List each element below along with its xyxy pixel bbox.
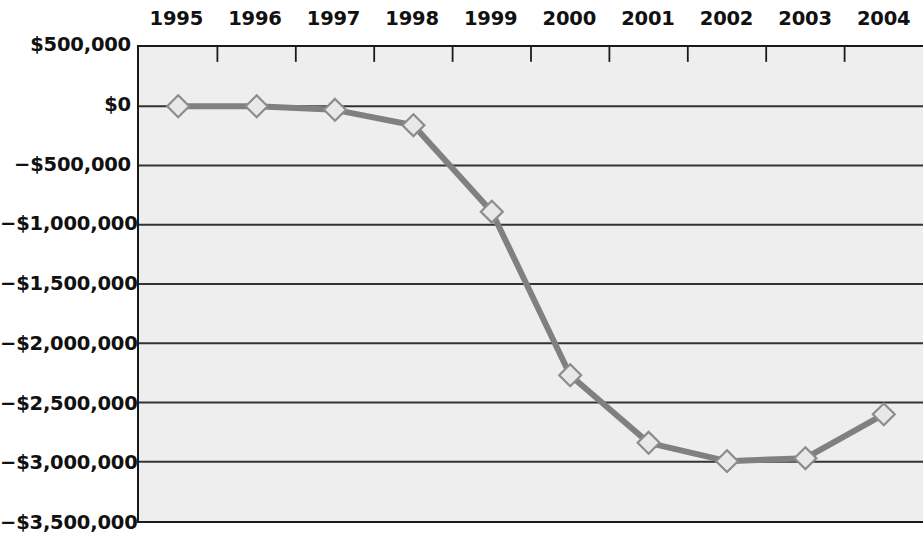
x-axis-ticks [217, 47, 844, 62]
x-axis-tick-label: 1998 [385, 9, 438, 29]
x-axis-tick-label: 2004 [857, 9, 910, 29]
y-axis-tick-label: $0 [0, 95, 131, 115]
y-axis-tick-label: −$1,000,000 [0, 215, 131, 235]
x-axis-tick-label: 2001 [621, 9, 674, 29]
y-axis-tick-label: −$3,000,000 [0, 454, 131, 474]
x-axis-tick-label: 1996 [228, 9, 281, 29]
y-axis-tick-label: −$3,500,000 [0, 513, 131, 533]
x-axis-tick-label: 2003 [778, 9, 831, 29]
x-axis-tick-label: 1995 [150, 9, 203, 29]
x-axis-tick-label: 2002 [700, 9, 753, 29]
x-axis-tick-label: 1999 [464, 9, 517, 29]
gridlines [139, 106, 923, 462]
plot-area [137, 45, 923, 523]
plot-svg [139, 47, 923, 521]
x-axis-tick-labels: 1995199619971998199920002001200220032004 [137, 0, 923, 44]
x-axis-tick-label: 2000 [543, 9, 596, 29]
y-axis-tick-labels: $500,000$0−$500,000−$1,000,000−$1,500,00… [0, 0, 131, 535]
data-point-marker [167, 95, 189, 117]
data-point-marker [246, 95, 268, 117]
data-point-marker [324, 99, 346, 121]
y-axis-tick-label: −$2,000,000 [0, 334, 131, 354]
data-point-marker [716, 450, 738, 472]
x-axis-tick-label: 1997 [307, 9, 360, 29]
cumulative-cash-flow-line-chart: $500,000$0−$500,000−$1,000,000−$1,500,00… [0, 0, 923, 535]
y-axis-tick-label: −$2,500,000 [0, 394, 131, 414]
y-axis-tick-label: −$1,500,000 [0, 274, 131, 294]
y-axis-tick-label: $500,000 [0, 35, 131, 55]
y-axis-tick-label: −$500,000 [0, 155, 131, 175]
